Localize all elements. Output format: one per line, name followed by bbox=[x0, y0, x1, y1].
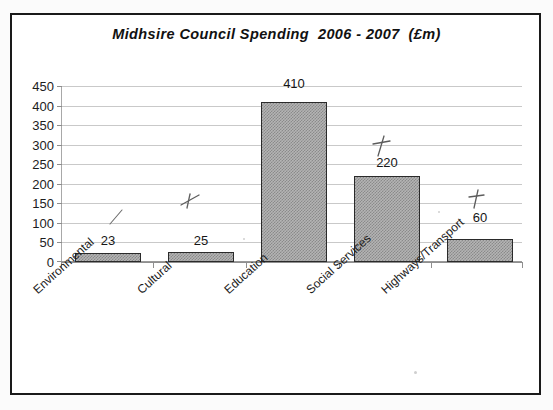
chart-title: Midhsire Council Spending 2006 - 2007 (£… bbox=[0, 26, 553, 42]
y-tick-label: 0 bbox=[10, 256, 54, 269]
y-tick-mark bbox=[57, 242, 62, 243]
bar-value-label: 25 bbox=[168, 234, 234, 247]
y-tick-label: 350 bbox=[10, 119, 54, 132]
y-axis-labels: 450 400 350 300 250 200 150 100 50 0 bbox=[8, 86, 54, 262]
y-tick-mark bbox=[57, 223, 62, 224]
y-tick-label: 50 bbox=[10, 236, 54, 249]
bar-value-label: 410 bbox=[261, 77, 327, 90]
y-tick-label: 200 bbox=[10, 178, 54, 191]
y-tick-label: 100 bbox=[10, 217, 54, 230]
scan-speck bbox=[438, 211, 440, 213]
bar-highways-transport[interactable] bbox=[447, 239, 513, 263]
y-tick-mark bbox=[57, 86, 62, 87]
y-tick-mark bbox=[57, 125, 62, 126]
y-tick-mark bbox=[57, 106, 62, 107]
scan-speck bbox=[414, 371, 417, 374]
y-tick-label: 250 bbox=[10, 158, 54, 171]
x-tick-mark bbox=[522, 262, 523, 268]
y-tick-mark bbox=[57, 203, 62, 204]
y-axis-line bbox=[61, 86, 62, 262]
y-tick-label: 450 bbox=[10, 80, 54, 93]
y-tick-mark bbox=[57, 164, 62, 165]
x-tick-mark bbox=[431, 262, 432, 268]
y-tick-label: 300 bbox=[10, 139, 54, 152]
bar-cultural[interactable] bbox=[168, 252, 234, 262]
y-tick-mark bbox=[57, 145, 62, 146]
y-tick-label: 150 bbox=[10, 197, 54, 210]
bar-education[interactable] bbox=[261, 102, 327, 262]
y-tick-label: 400 bbox=[10, 100, 54, 113]
y-tick-mark bbox=[57, 184, 62, 185]
scan-speck bbox=[243, 238, 245, 240]
x-axis-line bbox=[61, 262, 522, 263]
bar-value-label: 220 bbox=[354, 156, 420, 169]
